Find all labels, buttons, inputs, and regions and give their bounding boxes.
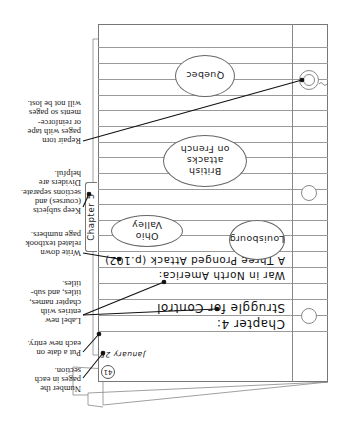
leader-lines	[0, 0, 343, 435]
notebook-diagram: 41 January 25 Chapter 4: Struggle for Co…	[0, 0, 343, 435]
